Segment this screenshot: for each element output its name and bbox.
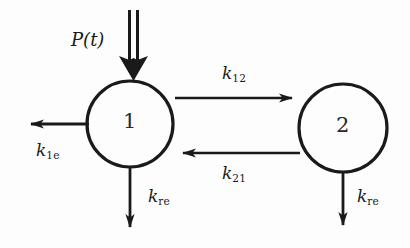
removal-rate-left-subscript: re: [158, 195, 170, 207]
compartment-2-label: 2: [336, 113, 349, 137]
input-arrow: [119, 10, 148, 81]
backward-rate-subscript: 21: [232, 172, 246, 184]
removal-rate-right-subscript: re: [367, 195, 379, 207]
input-rate-text: P(t): [71, 29, 104, 50]
forward-rate-subscript: 12: [232, 72, 246, 84]
removal-rate-left-base: k: [148, 186, 158, 206]
removal-rate-left-label: kre: [148, 188, 170, 205]
compartment-1-label: 1: [123, 109, 136, 133]
removal-rate-right-base: k: [357, 186, 367, 206]
removal-rate-right-label: kre: [357, 188, 379, 205]
backward-rate-base: k: [222, 163, 232, 183]
elimination-rate-base: k: [36, 140, 46, 160]
elimination-rate-label: k1e: [36, 142, 60, 159]
backward-rate-label: k21: [222, 165, 246, 182]
elimination-rate-subscript: 1e: [46, 149, 59, 161]
input-rate-label: P(t): [71, 31, 104, 49]
forward-rate-label: k12: [222, 65, 246, 82]
compartment-model-diagram: 1 2 P(t) k12 k21 k1e kre kre: [0, 0, 410, 248]
forward-rate-base: k: [222, 63, 232, 83]
